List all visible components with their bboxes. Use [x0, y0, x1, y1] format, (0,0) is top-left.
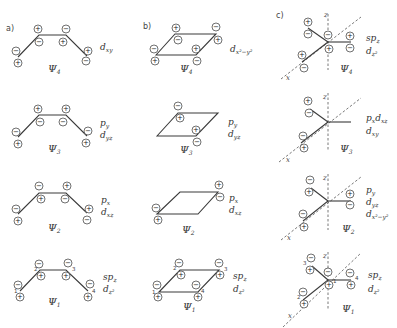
- svg-text:x: x: [286, 74, 290, 82]
- svg-text:z: z: [322, 174, 327, 182]
- psi-label: Ψ1: [183, 301, 196, 313]
- psi-label: Ψ3: [48, 143, 61, 155]
- orbital-label: spz: [368, 270, 382, 281]
- svg-text:1: 1: [152, 289, 156, 295]
- orbital-a-psi4: Ψ4 dxy: [12, 25, 113, 75]
- orbital-c-psi3: zx Ψ3 pxdxz dxy: [279, 93, 388, 164]
- orbital-b-psi1: 12 34 Ψ1 spz dz²: [152, 259, 247, 313]
- orbital-label: dyz: [100, 130, 113, 142]
- orbital-label: px: [229, 193, 239, 204]
- psi-label: Ψ1: [48, 296, 61, 308]
- orbital-label: dyz: [228, 129, 241, 141]
- svg-text:z: z: [322, 93, 327, 101]
- orbital-label: py: [228, 117, 238, 129]
- orbital-label: spz: [233, 271, 247, 282]
- orbital-label: dyz: [366, 197, 379, 209]
- svg-text:3: 3: [303, 260, 307, 266]
- orbital-label: dxy: [100, 42, 113, 54]
- orbital-c-psi2: zx Ψ2 py dyz dx²−y²: [281, 174, 389, 242]
- orbital-c-psi1: 31 42 zx Ψ1 spz dz²: [283, 252, 382, 327]
- svg-text:4: 4: [355, 275, 359, 281]
- orbital-label: px: [101, 195, 111, 206]
- svg-text:3: 3: [224, 266, 228, 272]
- orbital-a-psi3: Ψ3 py dyz: [12, 105, 113, 155]
- svg-text:4: 4: [201, 288, 205, 294]
- psi-label: Ψ1: [342, 303, 355, 315]
- svg-text:x: x: [287, 234, 291, 242]
- orbital-label: py: [366, 185, 376, 197]
- orbital-label: dxz: [229, 205, 242, 216]
- orbital-b-psi3: Ψ3 py dyz: [157, 102, 241, 156]
- psi-label: Ψ3: [180, 144, 193, 156]
- psi-label: Ψ3: [340, 143, 353, 155]
- orbital-label: py: [100, 118, 110, 130]
- svg-text:3: 3: [72, 266, 76, 272]
- svg-text:x: x: [286, 156, 290, 164]
- orbital-a-psi2: Ψ2 px dxz: [12, 182, 114, 234]
- orbital-label: dz²: [103, 284, 115, 295]
- svg-text:1: 1: [333, 278, 337, 284]
- psi-label: Ψ4: [180, 63, 193, 75]
- orbital-c-psi4: zx Ψ4 spz dz²: [281, 11, 380, 82]
- svg-text:2: 2: [173, 265, 177, 271]
- panel-label-a: a): [6, 24, 14, 33]
- orbital-b-psi2: Ψ2 px dxz: [152, 181, 242, 236]
- orbital-b-psi4: Ψ4 dx²−y²: [150, 23, 253, 75]
- orbital-label: spz: [103, 272, 117, 283]
- orbital-label: dz²: [366, 46, 378, 57]
- svg-text:2: 2: [297, 294, 301, 300]
- orbital-label: dxy: [366, 126, 379, 138]
- svg-text:4: 4: [92, 288, 96, 294]
- psi-label: Ψ2: [182, 224, 195, 236]
- orbital-label: dz²: [368, 284, 380, 295]
- panel-label-b: b): [143, 22, 151, 31]
- svg-text:2: 2: [34, 266, 38, 272]
- orbital-label: dx²−y²: [230, 44, 253, 56]
- psi-label: Ψ2: [342, 223, 355, 235]
- psi-label: Ψ4: [340, 63, 353, 75]
- orbital-label: pxdxz: [366, 113, 388, 124]
- svg-text:z: z: [323, 11, 328, 19]
- psi-label: Ψ2: [48, 222, 61, 234]
- orbital-diagram: + − a) b) c) Ψ4 dxy Ψ3 py dyz Ψ2 px dxz: [0, 0, 397, 328]
- svg-text:1: 1: [14, 288, 18, 294]
- orbital-label: dz²: [233, 284, 245, 295]
- panel-label-c: c): [276, 11, 284, 20]
- orbital-label: dx²−y²: [366, 209, 389, 221]
- svg-text:x: x: [288, 312, 292, 320]
- svg-text:z: z: [322, 252, 327, 260]
- psi-label: Ψ4: [48, 63, 61, 75]
- orbital-label: dxz: [101, 207, 114, 218]
- orbital-label: spz: [366, 33, 380, 44]
- orbital-a-psi1: 12 34 Ψ1 spz dz²: [14, 259, 117, 308]
